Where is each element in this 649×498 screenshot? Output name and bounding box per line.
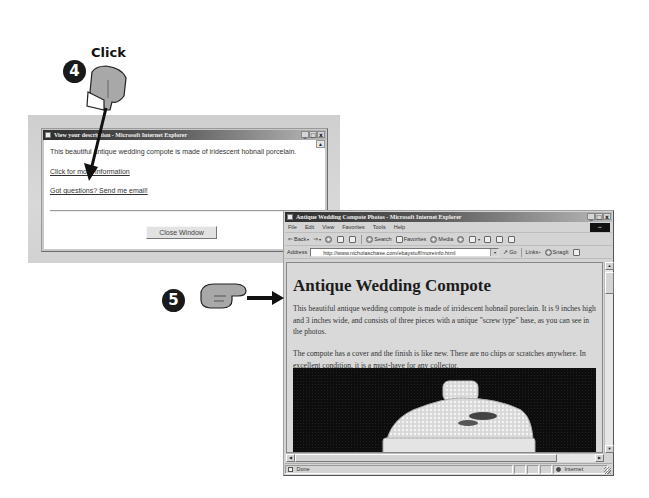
browser-title: Antique Wedding Compote Photos - Microso… <box>296 214 462 220</box>
standard-toolbar: ⇐ Back ▾ ⇒ ▾ Search Favorites Media ▾ <box>285 233 612 246</box>
click-label: Click <box>91 45 126 60</box>
scroll-right-button[interactable]: ▶ <box>595 454 604 462</box>
horizontal-scroll-thumb[interactable] <box>295 454 557 462</box>
status-pane-blank <box>540 465 552 474</box>
status-bar: Done Internet <box>285 463 612 475</box>
page-done-icon <box>288 467 293 472</box>
discuss-button[interactable] <box>508 236 516 243</box>
horizontal-scrollbar[interactable]: ◀ ▶ <box>286 453 604 462</box>
menu-file[interactable]: File <box>288 222 297 232</box>
media-button[interactable]: Media <box>430 236 453 243</box>
menu-favorites[interactable]: Favorites <box>342 222 365 232</box>
snagit-button[interactable]: SnagIt <box>545 249 569 256</box>
popup-titlebar[interactable]: View your description - Microsoft Intern… <box>43 130 326 140</box>
status-text-pane: Done <box>285 465 513 474</box>
edit-icon <box>496 236 503 243</box>
step-5-badge: 5 <box>162 289 185 312</box>
address-input[interactable]: http://www.nicholaschase.com/ebaystuff/m… <box>310 248 499 257</box>
edit-button[interactable] <box>496 236 504 243</box>
favorites-label: Favorites <box>404 236 427 242</box>
go-button[interactable]: ➚ Go <box>503 249 516 255</box>
hand-pointer-right-icon <box>201 284 246 308</box>
refresh-icon <box>337 236 344 243</box>
go-label: Go <box>509 249 516 255</box>
menu-tools[interactable]: Tools <box>373 222 386 232</box>
home-button[interactable] <box>349 236 357 243</box>
popup-description-text: This beautiful antique wedding compote i… <box>50 148 296 155</box>
url-text: http://www.nicholaschase.com/ebaystuff/m… <box>323 250 455 256</box>
discuss-icon <box>508 236 515 243</box>
ie-throbber-logo-icon: ▪▪ <box>590 223 610 232</box>
close-button[interactable]: x <box>317 131 325 138</box>
hand-pointer-down-icon <box>87 66 126 110</box>
popup-title: View your description - Microsoft Intern… <box>54 132 187 138</box>
chevron-right-icon: » <box>538 250 540 255</box>
forward-button[interactable]: ⇒ ▾ <box>313 236 321 242</box>
snagit-label: SnagIt <box>553 249 569 255</box>
menu-view[interactable]: View <box>322 222 334 232</box>
forward-arrow-icon: ⇒ <box>313 236 318 242</box>
menu-edit[interactable]: Edit <box>305 222 314 232</box>
vertical-scrollbar[interactable]: ▲ ▼ <box>604 262 613 453</box>
favorites-button[interactable]: Favorites <box>396 236 427 243</box>
address-label: Address <box>287 249 307 255</box>
stop-button[interactable] <box>325 236 333 243</box>
links-label: Links <box>526 249 539 255</box>
back-button[interactable]: ⇐ Back ▾ <box>288 236 309 242</box>
close-button[interactable]: x <box>603 213 611 220</box>
scroll-up-button[interactable]: ▲ <box>605 262 614 270</box>
favorites-icon <box>396 236 403 243</box>
globe-icon <box>556 467 561 472</box>
back-label: Back <box>294 236 306 242</box>
search-icon <box>366 236 373 243</box>
refresh-button[interactable] <box>337 236 345 243</box>
email-link[interactable]: Got questions? Send me email! <box>50 187 148 194</box>
maximize-button[interactable]: □ <box>309 131 317 138</box>
more-information-link[interactable]: Click for more information <box>50 168 130 175</box>
print-button[interactable] <box>484 236 492 243</box>
scroll-up-button[interactable]: ▲ <box>316 140 325 148</box>
maximize-button[interactable]: □ <box>595 213 603 220</box>
close-window-button[interactable]: Close Window <box>146 226 217 239</box>
scroll-down-button[interactable]: ▼ <box>605 445 614 453</box>
scroll-left-button[interactable]: ◀ <box>286 454 295 462</box>
search-label: Search <box>374 236 391 242</box>
browser-titlebar[interactable]: Antique Wedding Compote Photos - Microso… <box>285 212 612 222</box>
ie-page-icon <box>287 214 293 220</box>
search-button[interactable]: Search <box>366 236 391 243</box>
status-pane-progress <box>514 465 526 474</box>
chevron-down-icon[interactable]: ▾ <box>307 237 309 242</box>
compote-image <box>293 368 596 453</box>
minimize-button[interactable]: _ <box>301 131 309 138</box>
description-paragraph: This beautiful antique wedding compote i… <box>293 303 596 338</box>
minimize-button[interactable]: _ <box>587 213 595 220</box>
chevron-down-icon[interactable]: ▾ <box>319 237 321 242</box>
history-button[interactable] <box>457 236 465 243</box>
page-viewport: Antique Wedding Compote This beautiful a… <box>286 262 603 453</box>
toolbar-separator <box>361 235 362 244</box>
page-title: Antique Wedding Compote <box>293 276 491 296</box>
stop-icon <box>325 236 332 243</box>
toolbar-separator <box>521 248 522 257</box>
snagit-window-button[interactable] <box>573 249 581 256</box>
chevron-down-icon[interactable]: ▾ <box>478 237 480 242</box>
step-4-badge: 4 <box>63 60 86 83</box>
status-pane-lock <box>527 465 539 474</box>
ie-page-icon <box>45 132 51 138</box>
media-label: Media <box>438 236 453 242</box>
browser-window: Antique Wedding Compote Photos - Microso… <box>283 210 614 476</box>
mail-icon <box>469 236 476 243</box>
resize-grip[interactable] <box>604 467 611 474</box>
menu-help[interactable]: Help <box>394 222 405 232</box>
status-text: Done <box>297 466 310 472</box>
history-icon <box>457 236 464 243</box>
links-button[interactable]: Links » <box>526 249 541 255</box>
snagit-icon <box>545 249 552 256</box>
divider <box>50 210 319 212</box>
scroll-thumb[interactable] <box>605 272 614 294</box>
mail-button[interactable]: ▾ <box>469 236 480 243</box>
capture-window-icon <box>573 249 580 256</box>
menu-bar: File Edit View Favorites Tools Help ▪▪ <box>285 222 612 233</box>
address-dropdown-button[interactable]: ▾ <box>490 249 498 256</box>
back-arrow-icon: ⇐ <box>288 236 293 242</box>
